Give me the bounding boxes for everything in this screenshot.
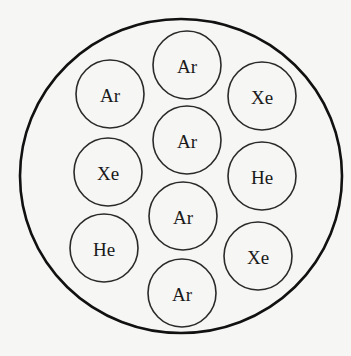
- atoms-group: ArArXeArXeHeArHeXeAr: [70, 31, 296, 327]
- atom-label: Ar: [172, 284, 193, 305]
- atom-label: Ar: [177, 56, 198, 77]
- atom-label: Ar: [177, 131, 198, 152]
- atom-he: He: [228, 142, 296, 210]
- gas-mixture-diagram: ArArXeArXeHeArHeXeAr: [0, 0, 351, 356]
- atom-ar: Ar: [153, 31, 221, 99]
- atom-label: Ar: [173, 207, 194, 228]
- atom-label: Xe: [97, 163, 119, 184]
- atom-xe: Xe: [224, 222, 292, 290]
- atom-label: Xe: [251, 87, 273, 108]
- atom-xe: Xe: [228, 62, 296, 130]
- atom-label: Xe: [247, 247, 269, 268]
- atom-ar: Ar: [148, 259, 216, 327]
- atom-label: He: [93, 239, 115, 260]
- atom-ar: Ar: [76, 60, 144, 128]
- atom-ar: Ar: [153, 106, 221, 174]
- atom-xe: Xe: [74, 138, 142, 206]
- atom-label: He: [251, 167, 273, 188]
- atom-ar: Ar: [149, 182, 217, 250]
- atom-he: He: [70, 214, 138, 282]
- atom-label: Ar: [100, 85, 121, 106]
